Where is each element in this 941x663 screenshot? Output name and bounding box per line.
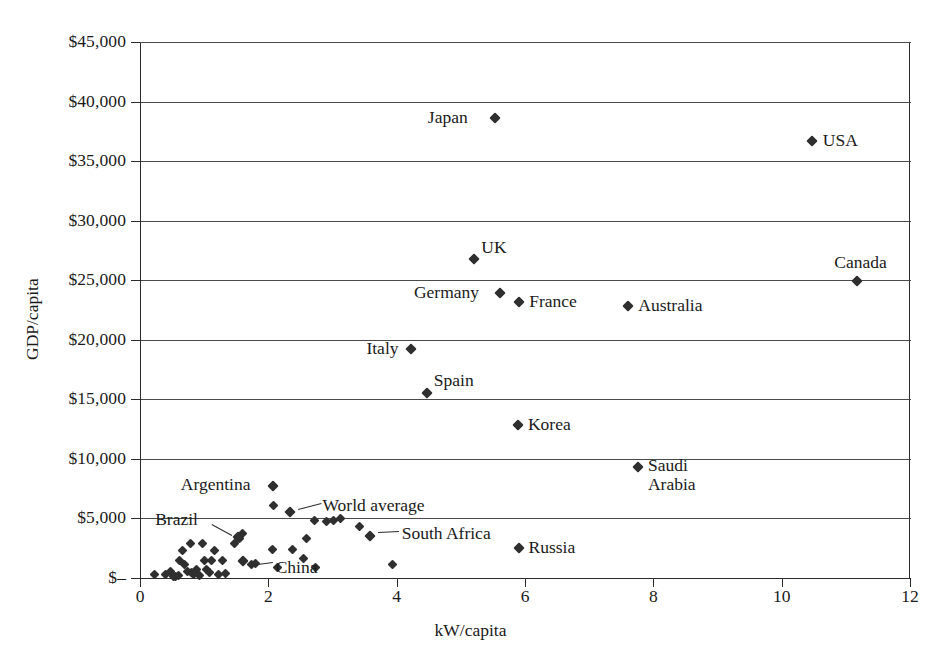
point-label-germany: Germany	[414, 283, 479, 302]
point-label-china: China	[276, 558, 318, 577]
y-tick-label: $5,000	[30, 509, 126, 527]
y-tick-label: $30,000	[30, 212, 126, 230]
y-tick-label: $45,000	[30, 33, 126, 51]
x-tick-mark	[397, 578, 398, 587]
y-tick-label: $15,000	[30, 390, 126, 408]
y-tick-label: $10,000	[30, 450, 126, 468]
y-axis-title: GDP/capita	[22, 278, 43, 360]
x-tick-label: 12	[890, 586, 930, 606]
y-tick-mark	[131, 221, 140, 222]
point-label-uk: UK	[481, 238, 506, 257]
y-tick-mark	[131, 161, 140, 162]
point-label-australia: Australia	[638, 296, 702, 315]
point-label-russia: Russia	[529, 538, 576, 557]
x-axis-title: kW/capita	[0, 620, 941, 641]
scatter-chart: $–$5,000$10,000$15,000$20,000$25,000$30,…	[0, 0, 941, 663]
y-tick-mark	[131, 340, 140, 341]
point-label-brazil: Brazil	[155, 510, 198, 529]
point-label-spain: Spain	[434, 371, 474, 390]
point-label-arabia: Arabia	[648, 475, 696, 494]
y-tick-label: $40,000	[30, 93, 126, 111]
y-tick-label: $20,000	[30, 331, 126, 349]
x-tick-label: 6	[505, 586, 545, 606]
x-tick-label: 2	[248, 586, 288, 606]
x-tick-label: 0	[120, 586, 160, 606]
gridline	[141, 340, 911, 341]
point-label-argentina: Argentina	[181, 475, 251, 494]
point-label-saudi: Saudi	[648, 456, 688, 475]
x-tick-label: 10	[762, 586, 802, 606]
x-tick-label: 4	[377, 586, 417, 606]
x-tick-mark	[268, 578, 269, 587]
x-tick-mark	[653, 578, 654, 587]
gridline	[141, 102, 911, 103]
point-label-france: France	[529, 292, 577, 311]
x-tick-mark	[140, 578, 141, 587]
gridline	[141, 280, 911, 281]
point-label-japan: Japan	[428, 108, 468, 127]
gridline	[141, 221, 911, 222]
y-tick-label: $25,000	[30, 271, 126, 289]
point-label-canada: Canada	[834, 253, 886, 272]
plot-area	[140, 42, 910, 578]
point-label-italy: Italy	[366, 339, 398, 358]
y-tick-label: $–	[30, 569, 126, 587]
gridline	[141, 459, 911, 460]
x-tick-label: 8	[633, 586, 673, 606]
x-tick-mark	[525, 578, 526, 587]
gridline	[141, 161, 911, 162]
y-tick-mark	[131, 42, 140, 43]
axis-top-line	[140, 42, 911, 43]
point-label-south-africa: South Africa	[402, 524, 491, 543]
y-tick-mark	[131, 578, 140, 579]
y-tick-mark	[131, 459, 140, 460]
x-tick-mark	[782, 578, 783, 587]
gridline	[141, 518, 911, 519]
y-tick-mark	[131, 399, 140, 400]
gridline	[141, 399, 911, 400]
y-tick-mark	[131, 280, 140, 281]
point-label-korea: Korea	[528, 415, 571, 434]
x-tick-mark	[910, 578, 911, 587]
point-label-world-average: World average	[323, 496, 425, 515]
y-tick-mark	[131, 518, 140, 519]
y-tick-mark	[131, 102, 140, 103]
y-tick-label: $35,000	[30, 152, 126, 170]
point-label-usa: USA	[823, 131, 858, 150]
